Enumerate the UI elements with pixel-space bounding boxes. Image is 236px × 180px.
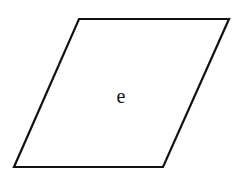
shape-label: e — [117, 85, 126, 107]
diagram-canvas: e — [0, 0, 236, 180]
